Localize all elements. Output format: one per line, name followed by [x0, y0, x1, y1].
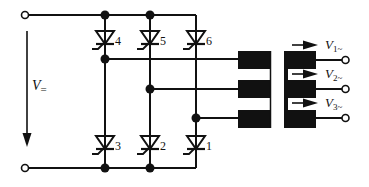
output-terminal-3	[316, 115, 349, 122]
thyristor-5	[137, 31, 159, 49]
circuit-diagram: V= 4 5 6 3 2 1	[0, 0, 369, 187]
thyristor-2-label: 2	[160, 139, 166, 153]
thyristor-3	[92, 136, 114, 154]
terminal-negative	[22, 165, 29, 172]
output-arrow-2	[292, 70, 318, 79]
output-label-1: V1~	[325, 37, 342, 54]
output-terminal-1	[316, 57, 349, 64]
output-arrow-3	[292, 99, 318, 108]
phase-wires	[105, 59, 240, 118]
thyristor-3-label: 3	[115, 139, 121, 153]
output-terminal-2	[316, 86, 349, 93]
output-label-3: V3~	[325, 95, 342, 112]
transformer-secondary	[284, 51, 316, 128]
thyristor-2	[137, 136, 159, 154]
thyristor-1-label: 1	[206, 139, 212, 153]
output-label-2: V2~	[325, 66, 342, 83]
dc-voltage-arrow	[23, 31, 32, 147]
dc-voltage-label: V=	[32, 78, 47, 95]
thyristor-5-label: 5	[160, 34, 166, 48]
terminal-positive	[22, 12, 29, 19]
thyristor-6-label: 6	[206, 34, 212, 48]
thyristor-1	[183, 136, 205, 154]
thyristor-4	[92, 31, 114, 49]
thyristor-6	[183, 31, 205, 49]
thyristor-4-label: 4	[115, 34, 121, 48]
output-arrow-1	[292, 41, 318, 50]
transformer-primary	[238, 51, 271, 128]
